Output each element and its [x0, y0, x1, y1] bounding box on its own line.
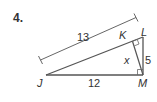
vertex-label-k: K	[119, 30, 126, 41]
vertex-label-j: J	[37, 78, 43, 89]
label-5: 5	[145, 55, 151, 66]
vertex-label-m: M	[138, 78, 147, 89]
label-13: 13	[77, 32, 89, 43]
label-x: x	[124, 55, 130, 66]
vertex-label-l: L	[141, 27, 147, 38]
triangle-diagram	[0, 0, 157, 102]
label-12: 12	[88, 78, 100, 89]
